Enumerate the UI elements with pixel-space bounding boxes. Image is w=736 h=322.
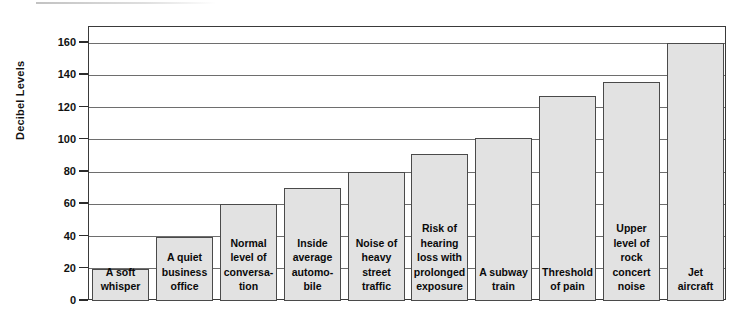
decibel-levels-chart-figure: Decibel Levels 020406080100120140160 A s… [0, 0, 736, 322]
y-tick-0: 0 [0, 294, 88, 306]
bar-label: Risk of hearing loss with prolonged expo… [412, 221, 467, 300]
y-tick-mark-120 [79, 106, 88, 108]
y-tick-label-0: 0 [70, 294, 76, 306]
bar[interactable]: Noise of heavy street traffic [348, 172, 405, 301]
bar-label: Normal level of conversa-​tion [221, 236, 276, 300]
scan-artifact-line [36, 2, 216, 4]
bar[interactable]: Normal level of conversa-​tion [220, 204, 277, 301]
y-tick-mark-80 [79, 170, 88, 172]
bar-label: Threshold of pain [540, 265, 595, 300]
bar-label: Inside average automo-​bile [285, 236, 340, 300]
bar[interactable]: A quiet business office [156, 237, 213, 301]
y-tick-label-100: 100 [58, 133, 76, 145]
y-tick-label-140: 140 [58, 68, 76, 80]
bar-group: A soft whisperA quiet business officeNor… [89, 27, 725, 299]
bar-label: A quiet business office [157, 250, 212, 300]
plot-area: A soft whisperA quiet business officeNor… [88, 26, 726, 300]
y-tick-mark-140 [79, 73, 88, 75]
y-tick-20: 20 [0, 262, 88, 274]
y-tick-mark-160 [79, 41, 88, 43]
y-tick-label-160: 160 [58, 36, 76, 48]
bar-label: Upper level of rock concert noise [604, 221, 659, 300]
y-tick-mark-40 [79, 235, 88, 237]
bar[interactable]: Threshold of pain [539, 96, 596, 301]
bar-label: A soft whisper [93, 265, 148, 300]
bar[interactable]: Jet aircraft [667, 43, 724, 301]
y-tick-mark-20 [79, 267, 88, 269]
bar[interactable]: Risk of hearing loss with prolonged expo… [411, 154, 468, 301]
bar-label: Noise of heavy street traffic [349, 236, 404, 300]
y-tick-label-80: 80 [64, 165, 76, 177]
y-tick-40: 40 [0, 230, 88, 242]
bar[interactable]: Upper level of rock concert noise [603, 82, 660, 301]
y-tick-label-40: 40 [64, 230, 76, 242]
y-tick-label-120: 120 [58, 101, 76, 113]
y-tick-mark-100 [79, 138, 88, 140]
bar[interactable]: A soft whisper [92, 269, 149, 301]
y-tick-mark-0 [79, 299, 88, 301]
bar-label: A subway train [476, 265, 531, 300]
y-tick-label-60: 60 [64, 197, 76, 209]
y-tick-60: 60 [0, 197, 88, 209]
y-tick-mark-60 [79, 202, 88, 204]
bar[interactable]: A subway train [475, 138, 532, 301]
y-tick-label-20: 20 [64, 262, 76, 274]
bar-label: Jet aircraft [668, 265, 723, 300]
bar[interactable]: Inside average automo-​bile [284, 188, 341, 301]
y-axis-title: Decibel Levels [14, 20, 34, 140]
y-tick-80: 80 [0, 165, 88, 177]
